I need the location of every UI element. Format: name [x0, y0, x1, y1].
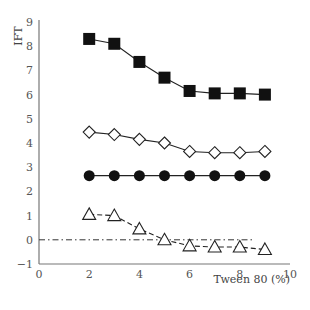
- y-tick-label: 3: [26, 161, 33, 174]
- diamond-open-marker: [184, 145, 196, 157]
- triangle-open-marker: [158, 233, 171, 245]
- y-tick-label: 6: [26, 89, 33, 102]
- circle-filled-marker: [184, 170, 195, 181]
- square-filled-marker: [83, 33, 95, 45]
- series-filled-circle: [84, 170, 271, 181]
- diamond-open-marker: [209, 147, 221, 159]
- x-tick-label: 6: [186, 268, 193, 281]
- y-tick-label: 7: [26, 64, 33, 77]
- y-tick-label: 0: [26, 234, 33, 247]
- y-tick-label: 8: [26, 40, 33, 53]
- y-tick-label: 4: [26, 137, 33, 150]
- y-axis-label: IFT: [12, 26, 25, 46]
- diamond-open-marker: [108, 129, 120, 141]
- x-tick-label: 4: [136, 268, 143, 281]
- y-tick-label: −1: [17, 258, 33, 271]
- circle-filled-marker: [234, 170, 245, 181]
- diamond-open-marker: [159, 137, 171, 149]
- circle-filled-marker: [209, 170, 220, 181]
- triangle-open-marker: [208, 241, 221, 253]
- circle-filled-marker: [134, 170, 145, 181]
- square-filled-marker: [133, 56, 145, 68]
- square-filled-marker: [234, 87, 246, 99]
- diamond-open-marker: [133, 133, 145, 145]
- circle-filled-marker: [84, 170, 95, 181]
- circle-filled-marker: [159, 170, 170, 181]
- triangle-open-marker: [233, 241, 246, 253]
- y-tick-label: 5: [26, 113, 33, 126]
- square-filled-marker: [209, 87, 221, 99]
- y-tick-label: 1: [26, 210, 33, 223]
- square-filled-marker: [259, 89, 271, 101]
- triangle-open-marker: [133, 222, 146, 234]
- circle-filled-marker: [259, 170, 270, 181]
- series-filled-square: [83, 33, 271, 101]
- ift-vs-tween80-chart: −101234567890246810 IFT Tween 80 (%): [0, 0, 310, 310]
- square-filled-marker: [184, 85, 196, 97]
- square-filled-marker: [108, 38, 120, 50]
- series-open-diamond: [83, 126, 271, 159]
- data-series: [83, 33, 272, 255]
- diamond-open-marker: [259, 145, 271, 157]
- triangle-open-marker: [83, 208, 96, 220]
- circle-filled-marker: [109, 170, 120, 181]
- y-tick-label: 9: [26, 16, 33, 29]
- series-open-triangle: [83, 208, 272, 255]
- x-tick-label: 2: [86, 268, 93, 281]
- triangle-open-marker: [183, 239, 196, 251]
- x-axis-label: Tween 80 (%): [214, 273, 291, 286]
- x-tick-label: 0: [36, 268, 43, 281]
- y-tick-label: 2: [26, 185, 33, 198]
- diamond-open-marker: [234, 147, 246, 159]
- diamond-open-marker: [83, 126, 95, 138]
- axes: −101234567890246810: [17, 16, 297, 281]
- square-filled-marker: [159, 72, 171, 84]
